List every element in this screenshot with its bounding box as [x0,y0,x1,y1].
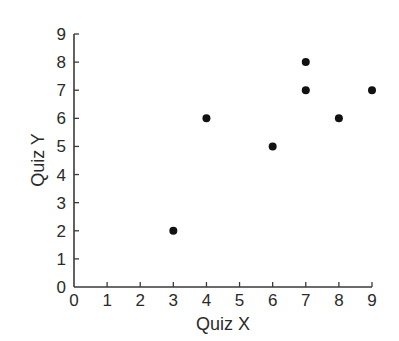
y-tick-label: 8 [57,53,66,72]
y-tick-label: 0 [57,278,66,297]
x-tick-label: 2 [135,291,144,310]
y-tick-label: 2 [57,222,66,241]
y-tick-label: 6 [57,109,66,128]
scatter-chart: 0123456789 0123456789 Quiz X Quiz Y [0,0,399,341]
data-point [302,58,310,66]
x-tick-label: 8 [334,291,343,310]
data-point [368,86,376,94]
x-tick-label: 4 [202,291,211,310]
y-axis-title: Quiz Y [28,133,48,187]
x-tick-label: 7 [301,291,310,310]
data-point [335,114,343,122]
x-tick-label: 5 [235,291,244,310]
x-tick-label: 6 [268,291,277,310]
data-points [169,58,376,235]
x-tick-label: 3 [169,291,178,310]
x-tick-label: 1 [102,291,111,310]
x-tick-label: 0 [69,291,78,310]
y-tick-label: 9 [57,25,66,44]
y-tick-label: 1 [57,250,66,269]
y-tick-label: 3 [57,194,66,213]
x-axis-title: Quiz X [196,314,250,334]
y-tick-label: 7 [57,81,66,100]
y-tick-label: 5 [57,137,66,156]
y-axis-ticks: 0123456789 [57,25,79,297]
data-point [269,142,277,150]
data-point [202,114,210,122]
y-tick-label: 4 [57,166,66,185]
x-tick-label: 9 [367,291,376,310]
data-point [169,227,177,235]
data-point [302,86,310,94]
axes [74,34,372,287]
